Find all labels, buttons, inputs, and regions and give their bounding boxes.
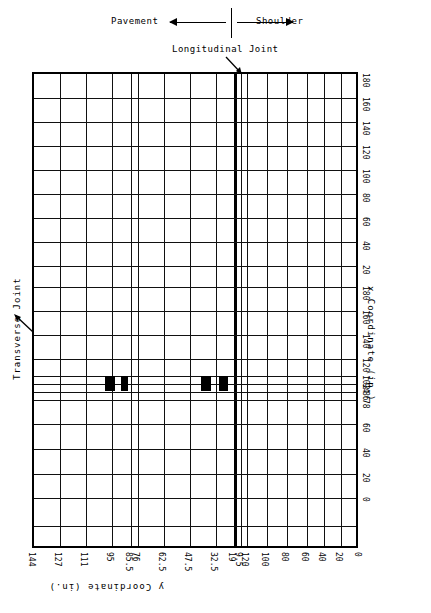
x-tick-label: 144 bbox=[27, 552, 36, 566]
grid-hline bbox=[34, 335, 356, 336]
y-tick-label: 40 bbox=[361, 448, 370, 458]
grid-hline bbox=[34, 400, 356, 401]
y-tick-label: 80 bbox=[361, 193, 370, 203]
pavement-direction-arrow bbox=[170, 18, 226, 27]
grid-hline bbox=[34, 146, 356, 147]
x-tick-label: 62.5 bbox=[157, 552, 166, 571]
grid-hline bbox=[34, 392, 356, 393]
grid-hline bbox=[34, 359, 356, 360]
pavement-grid-diagram: Pavement Shoulder Longitudinal Joint Tra… bbox=[0, 0, 431, 613]
y-axis-title: y Coordinate (in.) bbox=[48, 582, 164, 592]
grid-hline bbox=[34, 474, 356, 475]
y-tick-label: 78 bbox=[361, 399, 370, 409]
y-tick-label: 140 bbox=[361, 121, 370, 135]
marked-cell-defect-4 bbox=[219, 376, 228, 391]
x-tick-label: 76 bbox=[131, 552, 140, 562]
grid-hline bbox=[34, 424, 356, 425]
x-tick-label: 0 bbox=[353, 552, 362, 557]
y-tick-label: 140 bbox=[361, 334, 370, 348]
x-tick-label: 127 bbox=[53, 552, 62, 566]
grid-hline bbox=[34, 526, 356, 527]
y-tick-label: 160 bbox=[361, 310, 370, 324]
pavement-label: Pavement bbox=[111, 16, 158, 26]
grid-hline bbox=[34, 122, 356, 123]
x-tick-label: 40 bbox=[317, 552, 326, 562]
y-tick-label: 60 bbox=[361, 217, 370, 227]
marked-cell-defect-2 bbox=[121, 376, 128, 391]
x-tick-label: 20 bbox=[334, 552, 343, 562]
transverse-joint-annotation: Transverse Joint bbox=[12, 277, 22, 380]
y-tick-label: 160 bbox=[361, 97, 370, 111]
grid-plot-area bbox=[32, 72, 358, 548]
grid-hline bbox=[34, 376, 356, 377]
longitudinal-joint-indicator-line bbox=[231, 8, 232, 38]
x-tick-label: 95 bbox=[105, 552, 114, 562]
x-tick-label: 60 bbox=[300, 552, 309, 562]
grid-hline bbox=[34, 98, 356, 99]
grid-hline bbox=[34, 449, 356, 450]
y-tick-label: 40 bbox=[361, 241, 370, 251]
y-tick-label: 120 bbox=[361, 145, 370, 159]
x-tick-label: 120 bbox=[240, 552, 249, 566]
longitudinal-joint-label: Longitudinal Joint bbox=[172, 44, 279, 54]
shoulder-label: Shoulder bbox=[256, 16, 303, 26]
grid-hline bbox=[34, 194, 356, 195]
y-tick-label: 0 bbox=[361, 497, 370, 502]
y-tick-label: 100 bbox=[361, 169, 370, 183]
grid-hline bbox=[34, 498, 356, 499]
y-tick-label: 180 bbox=[361, 73, 370, 87]
x-tick-label: 32.5 bbox=[209, 552, 218, 571]
y-tick-label: 120 bbox=[361, 358, 370, 372]
grid-hline bbox=[34, 170, 356, 171]
grid-hline bbox=[34, 266, 356, 267]
grid-hline bbox=[34, 242, 356, 243]
grid-hline bbox=[34, 384, 356, 385]
y-tick-label: 180 bbox=[361, 286, 370, 300]
y-tick-label: 20 bbox=[361, 473, 370, 483]
marked-cell-defect-3 bbox=[201, 376, 211, 391]
marked-cell-defect-1 bbox=[105, 376, 115, 391]
x-tick-label: 111 bbox=[79, 552, 88, 566]
y-tick-label: 20 bbox=[361, 265, 370, 275]
grid-hline bbox=[34, 218, 356, 219]
x-tick-label: 47.5 bbox=[183, 552, 192, 571]
y-tick-label: 60 bbox=[361, 423, 370, 433]
grid-hline bbox=[34, 311, 356, 312]
grid-hline bbox=[34, 287, 356, 288]
x-tick-label: 100 bbox=[260, 552, 269, 566]
x-tick-label: 80 bbox=[280, 552, 289, 562]
